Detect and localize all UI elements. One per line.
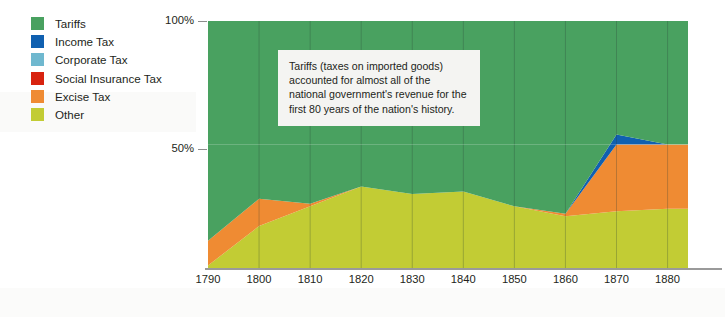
legend-item-label: Corporate Tax	[55, 53, 128, 66]
x-axis-tick-label: 1820	[341, 273, 381, 285]
scan-artifact	[0, 288, 725, 317]
chart-legend: TariffsIncome TaxCorporate TaxSocial Ins…	[31, 14, 191, 124]
legend-swatch-icon	[31, 72, 44, 85]
legend-swatch-icon	[31, 90, 44, 103]
legend-item[interactable]: Corporate Tax	[31, 51, 191, 69]
x-axis-tick-label: 1830	[392, 273, 432, 285]
legend-item-label: Excise Tax	[55, 90, 110, 103]
legend-item-label: Income Tax	[55, 35, 114, 48]
x-axis-tick-label: 1800	[239, 273, 279, 285]
legend-item-label: Social Insurance Tax	[55, 72, 162, 85]
legend-swatch-icon	[31, 35, 44, 48]
legend-item[interactable]: Social Insurance Tax	[31, 69, 191, 87]
y-axis-tick-mark-100	[198, 21, 207, 22]
tariffs-callout-text: Tariffs (taxes on imported goods) accoun…	[289, 59, 469, 116]
legend-swatch-icon	[31, 108, 44, 121]
x-axis-tick-label: 1880	[648, 273, 688, 285]
revenue-composition-chart: TariffsIncome TaxCorporate TaxSocial Ins…	[0, 0, 725, 317]
tariffs-callout: Tariffs (taxes on imported goods) accoun…	[278, 50, 480, 126]
x-axis-line	[205, 268, 722, 270]
legend-item[interactable]: Excise Tax	[31, 87, 191, 105]
x-axis-tick-label: 1840	[443, 273, 483, 285]
legend-item[interactable]: Other	[31, 105, 191, 123]
legend-swatch-icon	[31, 53, 44, 66]
legend-item-label: Tariffs	[55, 17, 86, 30]
x-axis-tick-label: 1870	[597, 273, 637, 285]
y-axis-tick-label-100: 100%	[148, 14, 194, 26]
x-axis-tick-label: 1850	[494, 273, 534, 285]
legend-item-label: Other	[55, 108, 84, 121]
legend-swatch-icon	[31, 17, 44, 30]
y-axis-tick-label-50: 50%	[148, 142, 194, 154]
x-axis-tick-label: 1810	[290, 273, 330, 285]
x-axis-tick-label: 1860	[545, 273, 585, 285]
y-axis-tick-mark-50	[198, 149, 207, 150]
x-axis-tick-label: 1790	[188, 273, 228, 285]
legend-item[interactable]: Income Tax	[31, 32, 191, 50]
